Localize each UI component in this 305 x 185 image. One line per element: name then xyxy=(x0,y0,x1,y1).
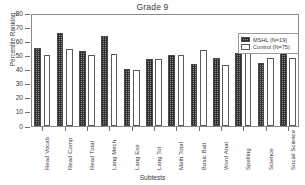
x-tick-label: Social Science xyxy=(290,130,296,170)
bar-mshl xyxy=(235,53,242,126)
x-tick-label: Word Anal xyxy=(223,142,229,170)
x-tick-mark xyxy=(154,127,155,131)
x-axis-label: Subtests xyxy=(0,174,305,181)
bar-control xyxy=(289,58,296,126)
y-tick-label: 10 xyxy=(0,108,23,115)
bar-control xyxy=(267,58,274,126)
legend-swatch-control xyxy=(241,44,250,50)
bar-control xyxy=(178,55,185,126)
y-tick-label: 80 xyxy=(0,10,23,17)
bar-group xyxy=(101,15,119,126)
x-tick-mark xyxy=(65,127,66,131)
bar-group xyxy=(79,15,97,126)
x-tick-mark xyxy=(221,127,222,131)
bar-mshl xyxy=(191,64,198,126)
y-tick-mark xyxy=(25,98,30,99)
x-tick-mark xyxy=(132,127,133,131)
x-tick-label: Lang Mech xyxy=(111,140,117,170)
x-tick-label: Science xyxy=(268,148,274,170)
bar-mshl xyxy=(101,36,108,126)
bar-group xyxy=(213,15,231,126)
x-tick-mark xyxy=(266,127,267,131)
x-tick-label: Read Vocab xyxy=(44,137,50,170)
bar-mshl xyxy=(124,69,131,126)
y-tick-label: 30 xyxy=(0,80,23,87)
bar-mshl xyxy=(168,55,175,126)
x-tick-mark xyxy=(199,127,200,131)
chart-legend: MSHL (N=19) Control (N=75) xyxy=(238,33,299,54)
y-tick-mark xyxy=(25,84,30,85)
bar-control xyxy=(155,59,162,126)
bar-mshl xyxy=(258,63,265,126)
y-tick-mark xyxy=(25,56,30,57)
bar-mshl xyxy=(79,51,86,126)
bar-mshl xyxy=(34,48,41,126)
bar-control xyxy=(133,70,140,127)
y-tick-label: 0 xyxy=(0,123,23,130)
bar-group xyxy=(191,15,209,126)
y-tick-label: 20 xyxy=(0,94,23,101)
x-tick-mark xyxy=(87,127,88,131)
bar-mshl xyxy=(213,58,220,126)
bar-control xyxy=(222,65,229,126)
bar-control xyxy=(245,53,252,126)
x-tick-mark xyxy=(288,127,289,131)
bar-group xyxy=(168,15,186,126)
legend-label-control: Control (N=75) xyxy=(253,44,290,50)
legend-swatch-mshl xyxy=(241,37,250,43)
bar-mshl xyxy=(280,48,287,126)
bar-group xyxy=(258,15,276,126)
bar-group xyxy=(57,15,75,126)
x-tick-mark xyxy=(176,127,177,131)
chart-title: Grade 9 xyxy=(0,2,305,12)
bar-group xyxy=(34,15,52,126)
x-tick-label: Spelling xyxy=(245,148,251,170)
y-tick-mark xyxy=(25,28,30,29)
bar-mshl xyxy=(57,33,64,126)
bar-control xyxy=(111,54,118,126)
bar-group xyxy=(124,15,142,126)
x-tick-mark xyxy=(243,127,244,131)
plot-area: MSHL (N=19) Control (N=75) xyxy=(31,14,299,127)
y-tick-mark xyxy=(25,127,30,128)
x-tick-label: Lang Tot xyxy=(156,147,162,170)
bar-control xyxy=(66,49,73,126)
bar-mshl xyxy=(146,59,153,126)
legend-item-control: Control (N=75) xyxy=(241,44,297,51)
y-tick-label: 40 xyxy=(0,66,23,73)
bar-control xyxy=(200,50,207,126)
bar-control xyxy=(44,55,51,126)
legend-label-mshl: MSHL (N=19) xyxy=(253,37,287,43)
x-tick-label: Basic Batt xyxy=(201,142,207,170)
x-tick-label: Math Total xyxy=(178,142,184,170)
y-tick-mark xyxy=(25,42,30,43)
bar-group xyxy=(280,15,298,126)
x-tick-label: Read Total xyxy=(89,141,95,170)
x-tick-label: Read Comp xyxy=(67,138,73,170)
y-tick-mark xyxy=(25,14,30,15)
x-tick-mark xyxy=(42,127,43,131)
x-tick-mark xyxy=(109,127,110,131)
bar-group xyxy=(146,15,164,126)
legend-item-mshl: MSHL (N=19) xyxy=(241,36,297,43)
y-tick-label: 60 xyxy=(0,38,23,45)
bar-control xyxy=(88,55,95,126)
y-tick-label: 70 xyxy=(0,24,23,31)
y-tick-label: 50 xyxy=(0,52,23,59)
chart-figure: Grade 9 Percentile Ranking 0102030405060… xyxy=(0,0,305,185)
bar-group xyxy=(235,15,253,126)
x-tick-label: Lang Exp xyxy=(134,144,140,170)
y-tick-mark xyxy=(25,112,30,113)
y-tick-mark xyxy=(25,70,30,71)
